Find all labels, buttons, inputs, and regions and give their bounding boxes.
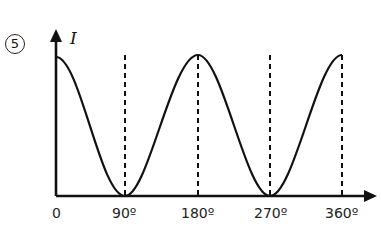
x-tick-90: 90º: [112, 205, 136, 221]
intensity-graph: [0, 0, 381, 229]
x-tick-180: 180º: [181, 205, 214, 221]
y-axis-arrow-icon: [50, 29, 62, 42]
x-tick-0: 0: [52, 205, 61, 221]
x-tick-270: 270º: [254, 205, 287, 221]
x-axis-arrow-icon: [364, 190, 377, 202]
x-tick-360: 360º: [325, 205, 358, 221]
